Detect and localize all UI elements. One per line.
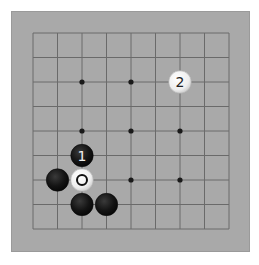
white-stone[interactable] [71,169,93,191]
black-stone[interactable] [95,193,117,215]
star-point [79,79,84,84]
star-point [79,128,84,133]
star-point [177,177,182,182]
move-number-label: 2 [176,74,185,90]
go-board-grid[interactable]: 12 [0,0,259,265]
black-stone[interactable] [46,169,68,191]
star-point [128,128,133,133]
star-point [128,177,133,182]
black-stone[interactable] [71,193,93,215]
move-number-label: 1 [78,148,87,164]
star-point [177,128,182,133]
star-point [128,79,133,84]
